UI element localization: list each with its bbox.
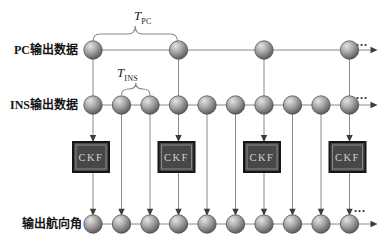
- ckf-input-arrow-icon: [261, 135, 267, 142]
- figure: .........CKFCKFCKFCKF PC输出数据 INS输出数据 输出航…: [0, 0, 392, 250]
- output-node: [312, 215, 330, 233]
- row-label-pc-output-data: PC输出数据: [14, 43, 78, 57]
- pc-continue-arrow-icon: [371, 47, 378, 53]
- ins-continue-arrow-icon: [371, 102, 378, 108]
- row-label-output-heading: 输出航向角: [22, 217, 82, 231]
- ins-node: [340, 96, 358, 114]
- pc-node: [340, 41, 358, 59]
- output-node: [169, 215, 187, 233]
- ins-node: [84, 96, 102, 114]
- ckf-label: CKF: [79, 152, 104, 163]
- ins-node: [283, 96, 301, 114]
- output-node: [226, 215, 244, 233]
- pc-node: [255, 41, 273, 59]
- ckf-label: CKF: [164, 152, 189, 163]
- output-node: [141, 215, 159, 233]
- output-node: [340, 215, 358, 233]
- tins-subscript: INS: [124, 74, 138, 83]
- ins-ellipsis: ...: [356, 88, 368, 102]
- output-continue-arrow-icon: [371, 221, 378, 227]
- pc-node: [169, 41, 187, 59]
- output-node: [198, 215, 216, 233]
- ckf-label: CKF: [250, 152, 275, 163]
- output-node: [255, 215, 273, 233]
- period-label-tpc: TPC: [134, 9, 152, 29]
- ins-node: [198, 96, 216, 114]
- output-node: [283, 215, 301, 233]
- ckf-input-arrow-icon: [175, 135, 181, 142]
- output-ellipsis: ...: [354, 201, 366, 215]
- tpc-subscript: PC: [141, 17, 151, 26]
- ins-node: [226, 96, 244, 114]
- ins-node: [112, 96, 130, 114]
- row-label-ins-output-data: INS输出数据: [10, 98, 78, 112]
- output-node: [84, 215, 102, 233]
- ckf-input-arrow-icon: [346, 135, 352, 142]
- ins-node: [141, 96, 159, 114]
- ins-node: [169, 96, 187, 114]
- diagram-canvas: .........CKFCKFCKFCKF: [0, 0, 392, 250]
- period-label-tins: TINS: [117, 66, 138, 86]
- ckf-input-arrow-icon: [90, 135, 96, 142]
- ins-node: [312, 96, 330, 114]
- pc-node: [84, 41, 102, 59]
- output-node: [112, 215, 130, 233]
- ins-node: [255, 96, 273, 114]
- ckf-label: CKF: [335, 152, 360, 163]
